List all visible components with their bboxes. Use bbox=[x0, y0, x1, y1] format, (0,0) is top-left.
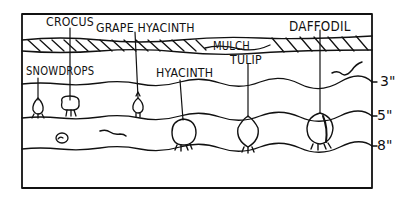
depth-label-5in: 5" bbox=[377, 107, 392, 123]
daffodil-bulb bbox=[307, 113, 333, 150]
label-hyacinth: HYACINTH bbox=[156, 65, 213, 80]
diagram-canvas: CROCUS GRAPE HYACINTH DAFFODIL MULCH TUL… bbox=[0, 0, 417, 201]
worm-icon-right bbox=[332, 62, 362, 75]
label-crocus: CROCUS bbox=[46, 14, 94, 29]
label-mulch: MULCH bbox=[213, 40, 250, 53]
diagram-drawing bbox=[0, 0, 417, 201]
tulip-bulb bbox=[238, 116, 259, 153]
depth-label-3in: 3" bbox=[380, 73, 395, 89]
hyacinth-pointer bbox=[180, 80, 183, 120]
grub-icon bbox=[56, 133, 68, 143]
worm-icon-left bbox=[100, 130, 126, 136]
snowdrops-bulb bbox=[32, 98, 44, 118]
label-daffodil: DAFFODIL bbox=[289, 18, 351, 34]
label-grape-hyacinth: GRAPE HYACINTH bbox=[96, 20, 195, 35]
depth-label-8in: 8" bbox=[377, 137, 392, 153]
label-tulip: TULIP bbox=[230, 52, 262, 67]
label-snowdrops: SNOWDROPS bbox=[26, 65, 94, 78]
